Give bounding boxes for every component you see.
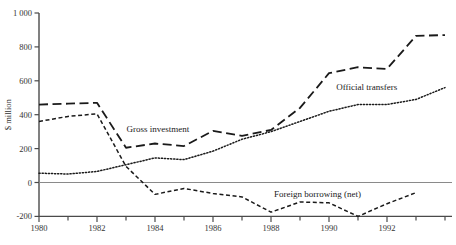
series-label-official-transfers: Official transfers	[336, 82, 398, 92]
x-axis-tick-label: 1990	[321, 223, 338, 233]
y-axis-tick-label: 800	[19, 42, 32, 52]
series-group	[39, 35, 445, 216]
y-axis-tick-label: 600	[19, 76, 32, 86]
x-axis-tick-label: 1986	[205, 223, 222, 233]
y-axis-tick-label: 0	[28, 178, 32, 188]
series-label-foreign-borrowing-net: Foreign borrowing (net)	[274, 189, 361, 199]
y-axis-tick-label: -200	[16, 211, 32, 221]
x-axis-tick-label: 1980	[31, 223, 48, 233]
y-axis-tick-labels: -20002004006008001 000	[13, 8, 32, 221]
y-axis-tick-label: 1 000	[13, 8, 32, 18]
y-axis-tick-label: 200	[19, 144, 32, 154]
series-annotation-labels: Gross investmentGross investmentOfficial…	[127, 82, 398, 199]
series-line-3	[39, 114, 416, 217]
x-axis-tick-label: 1982	[89, 223, 106, 233]
x-axis-tick-label: 1988	[263, 223, 280, 233]
y-axis-tick-label: 400	[19, 110, 32, 120]
chart-container: -20002004006008001 000 19801982198419861…	[0, 0, 456, 245]
x-axis-tick-label: 1992	[379, 223, 396, 233]
line-chart: -20002004006008001 000 19801982198419861…	[0, 0, 456, 245]
axes-group	[35, 13, 453, 222]
y-axis-title-label: $ million	[3, 98, 13, 130]
x-axis-tick-labels: 1980198219841986198819901992	[31, 223, 396, 233]
series-label-gross-investment: Gross investment	[127, 124, 190, 134]
series-line-2	[39, 88, 445, 174]
y-axis-title: $ million	[3, 98, 13, 130]
x-axis-tick-label: 1984	[147, 223, 165, 233]
